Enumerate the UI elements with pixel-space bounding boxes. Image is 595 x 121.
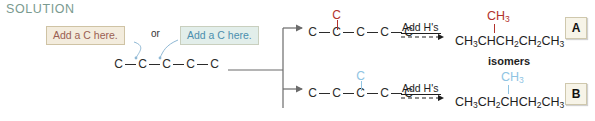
product-a-branch-bond xyxy=(494,24,495,33)
product-b-methyl-branch: CH3 xyxy=(501,70,524,85)
formula-group: CH2 xyxy=(496,34,519,48)
product-a-tag: A xyxy=(565,17,587,39)
formula-group: CH2 xyxy=(478,95,501,109)
formula-group: CH xyxy=(478,34,496,48)
chain-atom: C xyxy=(379,25,390,39)
formula-group: CH3 xyxy=(455,34,478,48)
chain-bond xyxy=(343,93,354,94)
chain-bond xyxy=(319,32,330,33)
page-title: SOLUTION xyxy=(6,2,75,16)
leader-line-left xyxy=(134,42,141,58)
chain-atom: C xyxy=(185,57,196,71)
callout-conjunction: or xyxy=(151,28,160,39)
formula-group: CH2 xyxy=(519,34,542,48)
chain-atom: C xyxy=(137,57,148,71)
chain-atom: C xyxy=(355,25,366,39)
callout-right-text: Add a C here. xyxy=(187,29,252,41)
formula-group: CH3 xyxy=(541,95,564,109)
upper-substituent-bond xyxy=(337,20,338,30)
solution-figure: SOLUTION Add a C here. or Add a C here. … xyxy=(0,0,595,121)
chain-bond xyxy=(343,32,354,33)
product-b-branch-bond xyxy=(508,85,509,94)
chain-bond xyxy=(197,64,208,65)
formula-group: CH xyxy=(501,95,519,109)
lower-reaction-underline xyxy=(401,94,441,95)
chain-bond xyxy=(173,64,184,65)
chain-atom: C xyxy=(331,86,342,100)
formula-group: CH3 xyxy=(541,34,564,48)
chain-bond xyxy=(367,32,378,33)
upper-branch-chain: CCCCC xyxy=(307,25,414,39)
chain-bond xyxy=(149,64,160,65)
chain-atom: C xyxy=(307,25,318,39)
formula-group: CH2 xyxy=(519,95,542,109)
product-a-methyl-branch: CH3 xyxy=(487,9,510,24)
leader-line-right xyxy=(160,40,178,58)
formula-group: CH3 xyxy=(455,95,478,109)
upper-reaction-label: Add H's xyxy=(402,21,438,33)
chain-atom: C xyxy=(379,86,390,100)
chain-bond xyxy=(319,93,330,94)
product-b-formula: CH3CH2CHCH2CH3 xyxy=(455,95,564,110)
callout-add-carbon-right: Add a C here. xyxy=(180,26,259,45)
chain-bond xyxy=(367,93,378,94)
lower-reaction-label: Add H's xyxy=(402,82,438,94)
upper-reaction-underline xyxy=(401,33,441,34)
isomers-note: isomers xyxy=(488,55,530,67)
chain-bond xyxy=(125,64,136,65)
product-a-formula: CH3CHCH2CH2CH3 xyxy=(455,34,564,49)
chain-atom: C xyxy=(161,57,172,71)
product-b-tag: B xyxy=(565,83,587,105)
lower-substituent-bond xyxy=(361,81,362,91)
chain-atom: C xyxy=(307,86,318,100)
chain-atom: C xyxy=(113,57,124,71)
starting-material-chain: CCCCC xyxy=(113,57,220,71)
chain-atom: C xyxy=(209,57,220,71)
callout-left-text: Add a C here. xyxy=(53,29,118,41)
callout-add-carbon-left: Add a C here. xyxy=(46,26,125,45)
